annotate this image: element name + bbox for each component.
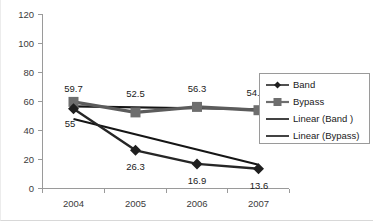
legend-label-linear-bypass[interactable]: Linear (Bypass)	[293, 130, 360, 141]
y-tick-label-40: 40	[23, 125, 34, 136]
legend-marker-square-icon	[274, 98, 282, 106]
x-tick-label-2006: 2006	[186, 198, 207, 209]
y-axis-ticks	[38, 15, 43, 189]
x-tick-label-2005: 2005	[125, 198, 146, 209]
y-tick-label-60: 60	[23, 96, 34, 107]
chart-canvas: 120 100 80 60 40 20 0 2004 2005 2006 200…	[1, 0, 373, 221]
data-point-bypass-2006	[192, 102, 202, 112]
series-line-band	[74, 109, 259, 169]
data-label-band-2005: 26.3	[126, 161, 145, 172]
x-tick-label-2004: 2004	[63, 198, 84, 209]
line-chart: 120 100 80 60 40 20 0 2004 2005 2006 200…	[0, 0, 373, 221]
y-tick-label-0: 0	[29, 183, 34, 194]
data-label-band-2006: 16.9	[188, 175, 207, 186]
x-tick-label-2007: 2007	[248, 198, 269, 209]
data-label-band-2007: 13.6	[250, 180, 269, 191]
legend-label-bypass[interactable]: Bypass	[293, 96, 324, 107]
data-label-bypass-2005: 52.5	[126, 88, 145, 99]
legend-label-band[interactable]: Band	[293, 79, 315, 90]
data-label-bypass-2006: 56.3	[188, 83, 207, 94]
y-tick-label-120: 120	[18, 9, 34, 20]
y-tick-label-80: 80	[23, 67, 34, 78]
legend-label-linear-band[interactable]: Linear (Band )	[293, 113, 353, 124]
data-label-bypass-2004: 59.7	[64, 83, 83, 94]
data-point-band-2007	[253, 163, 264, 174]
y-tick-label-20: 20	[23, 154, 34, 165]
series-markers-band	[68, 103, 264, 174]
data-point-band-2006	[192, 158, 203, 169]
chart-legend[interactable]: Band Bypass Linear (Band ) Linear (Bypas…	[260, 74, 370, 144]
y-tick-label-100: 100	[18, 38, 34, 49]
data-label-band-2004: 55	[65, 118, 76, 129]
data-label-bypass-2007: 54.	[246, 87, 259, 98]
data-point-bypass-2005	[131, 107, 141, 117]
